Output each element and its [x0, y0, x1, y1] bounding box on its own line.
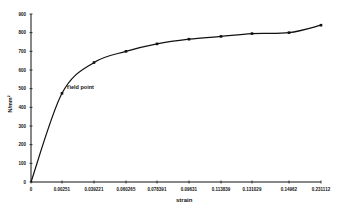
- x-tick-label: 0.09631: [181, 187, 198, 192]
- x-tick-label: 0.00251: [54, 187, 71, 192]
- y-tick-label: 500: [18, 86, 26, 91]
- y-tick-label: 200: [18, 142, 26, 147]
- y-tick-label: 600: [18, 68, 26, 73]
- y-tick-label: 400: [18, 105, 26, 110]
- data-point-marker: [251, 32, 254, 35]
- y-tick-label: 700: [18, 49, 26, 54]
- stress-strain-chart: 010020030040050060070080090000.002510.03…: [0, 0, 338, 209]
- chart-canvas: 010020030040050060070080090000.002510.03…: [0, 0, 338, 209]
- x-tick-label: 0.14962: [281, 187, 298, 192]
- x-tick-label: 0.078391: [148, 187, 167, 192]
- data-point-marker: [188, 38, 191, 41]
- y-tick-label: 0: [23, 180, 26, 185]
- stress-curve: [31, 25, 321, 182]
- data-point-marker: [156, 43, 159, 46]
- x-tick-label: 0.039221: [85, 187, 104, 192]
- x-tick-label: 0.131029: [243, 187, 262, 192]
- y-axis-label: N/mm²: [7, 95, 13, 112]
- x-tick-label: 0.231112: [312, 187, 331, 192]
- data-point-marker: [61, 92, 64, 95]
- data-point-marker: [220, 35, 223, 38]
- y-tick-label: 800: [18, 30, 26, 35]
- yield-point-annotation: Yield point: [66, 84, 94, 90]
- y-tick-label: 900: [18, 12, 26, 17]
- data-point-marker: [125, 50, 128, 53]
- x-tick-label: 0.060265: [117, 187, 136, 192]
- data-point-marker: [93, 61, 96, 64]
- axes: 010020030040050060070080090000.002510.03…: [18, 12, 330, 192]
- data-point-marker: [320, 24, 323, 27]
- data-point-marker: [288, 31, 291, 34]
- y-tick-label: 100: [18, 161, 26, 166]
- x-tick-label: 0: [30, 187, 33, 192]
- x-tick-label: 0.113839: [212, 187, 231, 192]
- x-axis-label: strain: [176, 197, 193, 203]
- y-tick-label: 300: [18, 124, 26, 129]
